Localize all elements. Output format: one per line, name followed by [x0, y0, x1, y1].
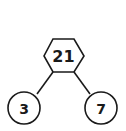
part-value-right: 7	[96, 101, 106, 117]
whole-node: 21	[44, 39, 84, 72]
connector-right	[74, 72, 90, 94]
part-value-left: 3	[19, 101, 29, 117]
connector-left	[37, 72, 53, 94]
part-node-left: 3	[8, 92, 40, 124]
whole-value: 21	[52, 47, 74, 66]
number-bond-diagram: 21 3 7	[0, 0, 126, 131]
part-node-right: 7	[85, 92, 117, 124]
